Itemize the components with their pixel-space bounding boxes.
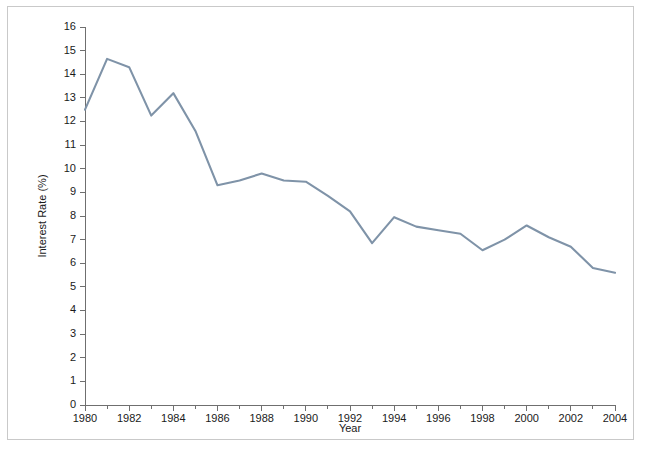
x-tick-label: 1990: [294, 412, 318, 424]
y-tick-label: 0: [70, 398, 76, 410]
y-tick-label: 10: [64, 162, 76, 174]
y-tick-label: 6: [70, 256, 76, 268]
y-tick-label: 14: [64, 67, 76, 79]
x-tick-label: 1996: [426, 412, 450, 424]
y-tick-label: 16: [64, 20, 76, 32]
x-tick-label: 1986: [205, 412, 229, 424]
y-tick-label: 8: [70, 209, 76, 221]
x-tick-label: 2002: [559, 412, 583, 424]
x-tick-label: 1998: [470, 412, 494, 424]
y-axis: 012345678910111213141516: [64, 20, 85, 410]
y-tick-label: 1: [70, 374, 76, 386]
x-tick-label: 1980: [73, 412, 97, 424]
y-tick-label: 13: [64, 91, 76, 103]
y-tick-label: 2: [70, 351, 76, 363]
interest-rate-series: [85, 59, 615, 273]
chart-canvas: 012345678910111213141516 198019821984198…: [0, 0, 656, 458]
y-tick-label: 5: [70, 280, 76, 292]
line-chart-figure: 012345678910111213141516 198019821984198…: [0, 0, 656, 458]
x-tick-label: 2000: [514, 412, 538, 424]
y-tick-label: 7: [70, 233, 76, 245]
y-tick-label: 3: [70, 327, 76, 339]
y-tick-label: 12: [64, 114, 76, 126]
x-tick-label: 1982: [117, 412, 141, 424]
x-tick-label: 1988: [249, 412, 273, 424]
y-tick-label: 4: [70, 303, 76, 315]
x-axis-title: Year: [339, 422, 362, 434]
y-axis-title: Interest Rate (%): [36, 174, 48, 257]
x-tick-label: 1994: [382, 412, 406, 424]
y-tick-label: 11: [65, 138, 76, 150]
y-tick-label: 15: [64, 44, 76, 56]
plot-area: 012345678910111213141516 198019821984198…: [36, 20, 627, 434]
y-tick-label: 9: [70, 185, 76, 197]
x-tick-label: 2004: [603, 412, 627, 424]
x-tick-label: 1984: [161, 412, 185, 424]
